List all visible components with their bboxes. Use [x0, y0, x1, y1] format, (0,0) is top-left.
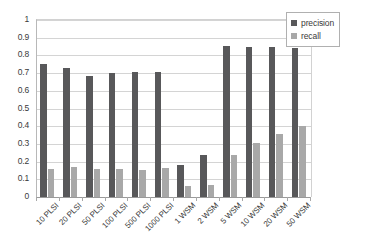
bar-recall	[162, 168, 169, 197]
bar-group	[219, 19, 242, 197]
x-tick-label: 10 PLSI	[35, 201, 61, 227]
bar-recall	[139, 170, 146, 197]
bar-precision	[109, 73, 116, 197]
bar-group	[242, 19, 265, 197]
bar-precision	[132, 72, 139, 197]
bar-recall	[185, 186, 192, 198]
bar-group	[150, 19, 173, 197]
bar-recall	[116, 169, 123, 197]
legend-label: recall	[301, 31, 321, 41]
bar-precision	[269, 47, 276, 197]
legend-label: precision	[301, 18, 334, 28]
bar-precision	[155, 72, 162, 197]
bar-precision	[86, 76, 93, 197]
bar-recall	[208, 185, 215, 197]
y-tick-label: 0.9	[18, 32, 29, 42]
bar-precision	[292, 48, 299, 197]
bar-group	[127, 19, 150, 197]
bar-group	[59, 19, 82, 197]
bar-precision	[63, 68, 70, 197]
bars-layer	[36, 19, 312, 197]
bar-group	[196, 19, 219, 197]
x-tick-label: 20 PLSI	[58, 201, 84, 227]
x-tick-label: 50 WSM	[284, 201, 312, 229]
y-tick-label: 0.2	[18, 156, 29, 166]
bar-precision	[177, 165, 184, 197]
x-tick-label: 10 WSM	[239, 201, 267, 229]
bar-group	[173, 19, 196, 197]
y-tick-label: 0.5	[18, 103, 29, 113]
chart-legend: precisionrecall	[286, 12, 340, 47]
bar-group	[264, 19, 287, 197]
bar-precision	[246, 47, 253, 197]
x-tick-label: 1 WSM	[173, 201, 198, 226]
bar-recall	[299, 126, 306, 197]
bar-recall	[231, 155, 238, 197]
legend-swatch-icon	[291, 20, 297, 26]
bar-recall	[253, 143, 260, 197]
y-tick-label: 0.1	[18, 173, 29, 183]
legend-swatch-icon	[291, 33, 297, 39]
y-tick-label: 0.7	[18, 67, 29, 77]
bar-precision	[40, 64, 47, 197]
bar-precision	[223, 46, 230, 197]
y-tick-label: 1	[24, 14, 29, 24]
bar-recall	[276, 134, 283, 197]
bar-precision	[200, 155, 207, 197]
y-tick-label: 0.4	[18, 120, 29, 130]
bar-group	[105, 19, 128, 197]
bar-group	[82, 19, 105, 197]
x-tick-label: 20 WSM	[261, 201, 289, 229]
bar-group	[36, 19, 59, 197]
y-tick-label: 0	[24, 191, 29, 201]
bar-recall	[94, 169, 101, 197]
x-tick-label: 2 WSM	[196, 201, 221, 226]
bar-chart: 00.10.20.30.40.50.60.70.80.91 10 PLSI20 …	[0, 0, 366, 248]
bar-recall	[71, 167, 78, 197]
y-axis: 00.10.20.30.40.50.60.70.80.91	[0, 19, 33, 197]
bar-recall	[48, 169, 55, 197]
legend-entry-recall[interactable]: recall	[291, 30, 334, 42]
legend-entry-precision[interactable]: precision	[291, 17, 334, 29]
y-tick-label: 0.8	[18, 49, 29, 59]
y-tick-label: 0.6	[18, 85, 29, 95]
y-tick-label: 0.3	[18, 138, 29, 148]
x-axis: 10 PLSI20 PLSI50 PLSI100 PLSI500 PLSI100…	[36, 201, 312, 248]
